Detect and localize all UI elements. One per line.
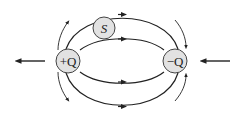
field-line-right-upper <box>175 20 186 47</box>
negative-charge: −Q <box>163 49 187 73</box>
positive-charge-label: +Q <box>60 54 77 69</box>
field-line-left-upper <box>58 22 68 50</box>
field-diagram: S +Q −Q <box>0 0 240 113</box>
field-line-outer-bottom <box>66 73 178 105</box>
surface-label: S <box>101 21 108 36</box>
field-line-right-lower <box>175 75 186 101</box>
negative-charge-label: −Q <box>167 54 184 69</box>
positive-charge: +Q <box>56 49 80 73</box>
field-line-outer-top <box>66 18 178 49</box>
field-line-left-lower <box>58 72 68 100</box>
field-line-inner-top <box>80 39 164 50</box>
surface-s: S <box>93 17 115 39</box>
